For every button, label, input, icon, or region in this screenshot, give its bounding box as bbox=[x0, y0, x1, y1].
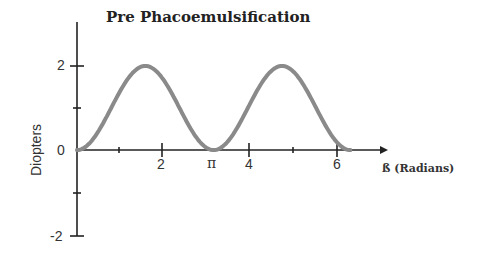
axes bbox=[70, 22, 388, 236]
chart-plot bbox=[0, 0, 489, 253]
x-axis-arrow-icon bbox=[380, 146, 388, 154]
data-series-curve bbox=[77, 66, 350, 150]
